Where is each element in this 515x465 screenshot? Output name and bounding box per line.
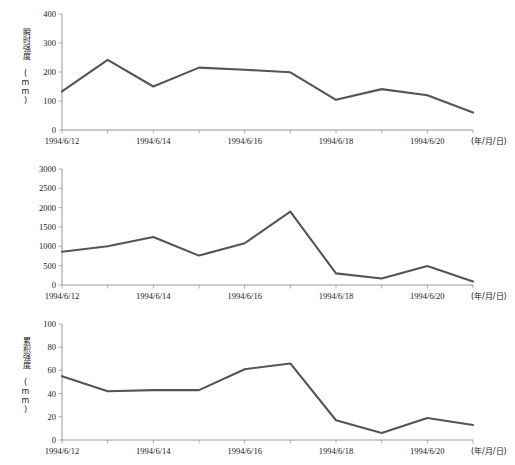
data-series-line [62,60,473,113]
y-tick-label: 500 [43,261,56,271]
y-tick-label: 0 [52,280,56,290]
x-axis-unit-label: (年/月/日) [471,446,507,456]
line-chart-instantaneous-intensity: 01002003004001994/6/121994/6/141994/6/16… [0,0,515,155]
x-tick-label: 1994/6/20 [410,136,444,146]
x-tick-label: 1994/6/18 [319,446,353,456]
y-tick-label: 300 [43,38,56,48]
x-tick-label: 1994/6/12 [45,136,79,146]
y-tick-label: 200 [43,67,56,77]
y-tick-label: 0 [52,125,56,135]
y-tick-label: 1500 [39,222,56,232]
y-tick-label: 80 [48,342,57,352]
x-axis-unit-label: (年/月/日) [471,291,507,301]
data-series-line [62,212,473,282]
y-tick-label: 2500 [39,183,56,193]
chart-panel-affected-area: 影响面积 (万km²) 0204060801001994/6/121994/6/… [0,310,515,465]
x-tick-label: 1994/6/18 [319,136,353,146]
figure-container: 瞬时强度 (mm) 01002003004001994/6/121994/6/1… [0,0,515,465]
x-tick-label: 1994/6/12 [45,446,79,456]
y-tick-label: 400 [43,9,56,19]
x-tick-label: 1994/6/16 [227,446,261,456]
y-tick-label: 1000 [39,241,56,251]
chart-panel-cumulative-intensity: 累积强度 (mm) 0500100015002000250030001994/6… [0,155,515,310]
y-tick-label: 20 [48,412,57,422]
x-tick-label: 1994/6/12 [45,291,79,301]
y-tick-label: 2000 [39,203,56,213]
chart-panel-instantaneous-intensity: 瞬时强度 (mm) 01002003004001994/6/121994/6/1… [0,0,515,155]
y-tick-label: 60 [48,365,57,375]
y-tick-label: 0 [52,435,56,445]
x-tick-label: 1994/6/16 [227,291,261,301]
y-tick-label: 40 [48,389,57,399]
x-tick-label: 1994/6/18 [319,291,353,301]
x-tick-label: 1994/6/14 [136,291,171,301]
x-tick-label: 1994/6/14 [136,446,171,456]
x-tick-label: 1994/6/20 [410,446,444,456]
data-series-line [62,363,473,433]
x-axis-unit-label: (年/月/日) [471,136,507,146]
y-tick-label: 100 [43,96,56,106]
x-tick-label: 1994/6/14 [136,136,171,146]
y-tick-label: 100 [43,319,56,329]
x-tick-label: 1994/6/20 [410,291,444,301]
line-chart-cumulative-intensity: 0500100015002000250030001994/6/121994/6/… [0,155,515,310]
y-tick-label: 3000 [39,164,56,174]
line-chart-affected-area: 0204060801001994/6/121994/6/141994/6/161… [0,310,515,465]
y-axis-label: 瞬时强度 (mm) [14,28,30,105]
x-tick-label: 1994/6/16 [227,136,261,146]
